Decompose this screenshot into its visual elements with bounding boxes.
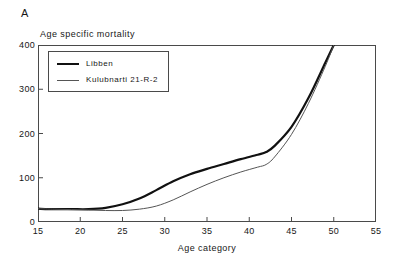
- x-tick-label: 35: [192, 226, 222, 236]
- y-axis-tick-labels: 0100200300400: [2, 45, 35, 222]
- y-tick-label: 400: [5, 40, 35, 50]
- chart-legend: LibbenKulubnarti 21-R-2: [48, 51, 169, 92]
- legend-label: Libben: [86, 59, 113, 69]
- x-tick-label: 30: [150, 226, 180, 236]
- y-tick-label: 100: [5, 173, 35, 183]
- figure-panel-a: A Age specific mortality 0100200300400 1…: [0, 0, 397, 266]
- x-tick-label: 25: [108, 226, 138, 236]
- x-tick-label: 55: [361, 226, 391, 236]
- y-tick-label: 300: [5, 84, 35, 94]
- legend-entry: Kulubnarti 21-R-2: [57, 73, 158, 87]
- legend-label: Kulubnarti 21-R-2: [86, 75, 158, 85]
- x-tick-label: 50: [319, 226, 349, 236]
- x-axis-title: Age category: [38, 243, 376, 254]
- x-tick-label: 20: [65, 226, 95, 236]
- y-tick-label: 200: [5, 129, 35, 139]
- legend-line-swatch-icon: [57, 80, 79, 81]
- legend-line-swatch-icon: [57, 63, 79, 65]
- x-axis-tick-labels: 152025303540455055: [38, 226, 376, 238]
- x-tick-label: 40: [234, 226, 264, 236]
- legend-entry: Libben: [57, 57, 113, 71]
- x-tick-label: 15: [23, 226, 53, 236]
- panel-label: A: [21, 7, 29, 20]
- y-axis-title: Age specific mortality: [40, 29, 135, 40]
- x-tick-label: 45: [277, 226, 307, 236]
